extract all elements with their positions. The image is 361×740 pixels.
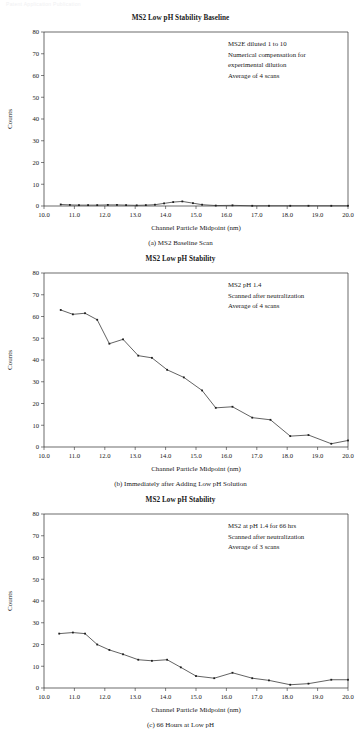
data-point-marker bbox=[163, 202, 165, 204]
x-tick-label: 18.0 bbox=[281, 211, 293, 218]
y-tick-label: 10 bbox=[32, 663, 39, 670]
data-point-marker bbox=[180, 666, 182, 668]
data-point-marker bbox=[251, 417, 253, 419]
x-tick-label: 10.0 bbox=[38, 211, 50, 218]
chart-title-b: MS2 Low pH Stability bbox=[0, 255, 361, 265]
chart-title-a: MS2 Low pH Stability Baseline bbox=[0, 14, 361, 24]
y-tick-label: 70 bbox=[32, 291, 39, 298]
x-tick-label: 12.0 bbox=[99, 693, 111, 700]
chart-panel-c: MS2 Low pH Stability 0102030405060708010… bbox=[0, 496, 361, 740]
x-tick-label: 11.0 bbox=[69, 693, 81, 700]
plot-frame bbox=[44, 32, 348, 206]
chart-annotation-line: Average of 4 scans bbox=[228, 72, 280, 79]
x-tick-label: 20.0 bbox=[342, 211, 354, 218]
y-tick-label: 50 bbox=[32, 94, 39, 101]
line-chart-b: 0102030405060708010.011.012.013.014.015.… bbox=[0, 265, 361, 477]
plot-axes bbox=[44, 32, 348, 206]
data-point-marker bbox=[166, 369, 168, 371]
x-tick-label: 19.0 bbox=[312, 452, 324, 459]
data-point-marker bbox=[151, 357, 153, 359]
chart-annotation-line: Numerical compensation for bbox=[228, 51, 306, 58]
data-point-marker bbox=[289, 435, 291, 437]
x-tick-label: 19.0 bbox=[312, 211, 324, 218]
x-tick-label: 11.0 bbox=[69, 452, 81, 459]
x-tick-label: 14.0 bbox=[160, 693, 172, 700]
data-point-marker bbox=[232, 406, 234, 408]
y-axis-title: Counts bbox=[6, 109, 14, 129]
chart-annotation-line: experimental dilution bbox=[228, 61, 287, 68]
data-point-marker bbox=[289, 684, 291, 686]
x-tick-label: 16.0 bbox=[221, 211, 233, 218]
y-tick-label: 30 bbox=[32, 378, 39, 385]
data-point-marker bbox=[122, 653, 124, 655]
x-tick-label: 17.0 bbox=[251, 452, 263, 459]
plot-frame bbox=[44, 514, 348, 688]
y-tick-label: 10 bbox=[32, 422, 39, 429]
data-point-marker bbox=[347, 679, 349, 681]
chart-panel-a: MS2 Low pH Stability Baseline 0102030405… bbox=[0, 14, 361, 255]
x-tick-label: 12.0 bbox=[99, 211, 111, 218]
line-chart-c: 0102030405060708010.011.012.013.014.015.… bbox=[0, 506, 361, 718]
data-point-marker bbox=[108, 343, 110, 345]
y-tick-label: 70 bbox=[32, 50, 39, 57]
data-point-marker bbox=[154, 204, 156, 206]
x-tick-label: 20.0 bbox=[342, 693, 354, 700]
x-tick-label: 18.0 bbox=[281, 452, 293, 459]
data-point-marker bbox=[84, 312, 86, 314]
data-point-marker bbox=[72, 632, 74, 634]
chart-annotation-line: MS2 at pH 1.4 for 66 hrs bbox=[228, 522, 297, 529]
plot-axes bbox=[44, 514, 348, 688]
data-series-line bbox=[61, 201, 348, 205]
plot-frame bbox=[44, 273, 348, 447]
x-tick-label: 16.0 bbox=[221, 452, 233, 459]
x-axis-title: Channel Particle Midpoint (nm) bbox=[151, 224, 241, 232]
plot-group: 0102030405060708010.011.012.013.014.015.… bbox=[6, 28, 354, 232]
chart-panel-b: MS2 Low pH Stability 0102030405060708010… bbox=[0, 255, 361, 496]
data-point-marker bbox=[84, 633, 86, 635]
y-tick-label: 50 bbox=[32, 576, 39, 583]
data-point-marker bbox=[289, 205, 291, 207]
data-point-marker bbox=[308, 683, 310, 685]
data-point-marker bbox=[251, 677, 253, 679]
y-tick-label: 0 bbox=[36, 684, 40, 691]
y-tick-label: 80 bbox=[32, 510, 39, 517]
y-tick-label: 30 bbox=[32, 619, 39, 626]
y-axis-title: Counts bbox=[6, 350, 14, 370]
x-tick-label: 19.0 bbox=[312, 693, 324, 700]
data-point-marker bbox=[347, 205, 349, 207]
page-header: Patent Application Publication bbox=[6, 1, 81, 7]
data-point-marker bbox=[137, 355, 139, 357]
x-tick-label: 10.0 bbox=[38, 452, 50, 459]
data-point-marker bbox=[201, 390, 203, 392]
x-tick-label: 13.0 bbox=[129, 452, 141, 459]
y-tick-label: 40 bbox=[32, 115, 39, 122]
data-point-marker bbox=[268, 679, 270, 681]
plot-wrap-a: 0102030405060708010.011.012.013.014.015.… bbox=[0, 24, 361, 236]
data-point-marker bbox=[172, 201, 174, 203]
y-tick-label: 40 bbox=[32, 356, 39, 363]
data-series-line bbox=[59, 633, 348, 685]
data-point-marker bbox=[96, 319, 98, 321]
data-point-marker bbox=[181, 201, 183, 203]
data-point-marker bbox=[201, 204, 203, 206]
data-point-marker bbox=[213, 677, 215, 679]
data-point-marker bbox=[183, 377, 185, 379]
data-point-marker bbox=[108, 649, 110, 651]
data-point-marker bbox=[116, 204, 118, 206]
data-point-marker bbox=[72, 313, 74, 315]
data-point-marker bbox=[308, 434, 310, 436]
subcaption-b: (b) Immediately after Adding Low pH Solu… bbox=[0, 477, 361, 489]
x-tick-label: 17.0 bbox=[251, 211, 263, 218]
data-point-marker bbox=[268, 205, 270, 207]
data-point-marker bbox=[122, 338, 124, 340]
line-chart-a: 0102030405060708010.011.012.013.014.015.… bbox=[0, 24, 361, 236]
data-point-marker bbox=[151, 660, 153, 662]
data-point-marker bbox=[69, 204, 71, 206]
x-tick-label: 10.0 bbox=[38, 693, 50, 700]
y-tick-label: 20 bbox=[32, 400, 39, 407]
plot-group: 0102030405060708010.011.012.013.014.015.… bbox=[6, 269, 354, 473]
x-tick-label: 20.0 bbox=[342, 452, 354, 459]
y-tick-label: 0 bbox=[36, 202, 40, 209]
plot-axes bbox=[44, 273, 348, 447]
data-point-marker bbox=[87, 204, 89, 206]
